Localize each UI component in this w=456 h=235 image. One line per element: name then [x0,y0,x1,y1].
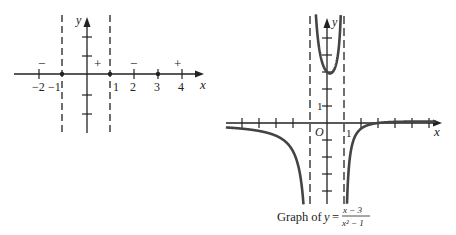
caption-numerator: x − 3 [342,205,363,215]
right-y-tick-label-1: 1 [317,100,323,112]
tick-label-neg1: −1 [48,80,61,94]
caption-prefix: Graph of [277,210,323,224]
sign-plus-2: + [174,56,181,71]
curve-left-branch [226,127,304,204]
right-x-tick-label-1: 1 [346,127,352,139]
right-function-graph: y x O 1 1 Graph of y = x − 3 x² − 1 [226,14,442,228]
figure-canvas: y x −2 −1 1 2 3 4 − + − + [0,0,456,235]
sign-minus-1: − [38,56,45,71]
right-y-axis-arrow-icon [324,18,331,28]
point-x-3 [156,72,160,76]
left-sign-diagram: y x −2 −1 1 2 3 4 − + − + [14,13,206,133]
tick-label-2: 2 [130,80,136,94]
sign-plus-1: + [94,56,101,71]
origin-label: O [315,125,324,139]
point-x-1 [108,72,112,76]
left-y-axis-arrow-icon [84,17,91,27]
graph-caption: Graph of y = x − 3 x² − 1 [277,205,370,228]
tick-label-1: 1 [113,80,119,94]
tick-label-3: 3 [154,80,160,94]
left-y-label: y [75,13,82,27]
curve-right-branch [347,122,436,204]
right-x-label: x [433,124,440,139]
caption-var: y [322,210,330,224]
caption-equals: = [332,210,339,224]
left-x-label: x [199,77,206,92]
sign-minus-2: − [130,56,137,71]
caption-denominator: x² − 1 [341,218,364,228]
tick-label-4: 4 [178,80,184,94]
point-x-neg1 [60,72,64,76]
right-y-label: y [331,15,338,29]
tick-label-neg2: −2 [32,80,45,94]
